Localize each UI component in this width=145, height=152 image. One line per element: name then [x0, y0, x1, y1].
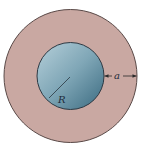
radius-label: R: [57, 94, 66, 105]
thickness-label: a: [114, 70, 120, 81]
sphere-diagram: R a: [0, 0, 145, 152]
inner-sphere: [37, 43, 104, 110]
